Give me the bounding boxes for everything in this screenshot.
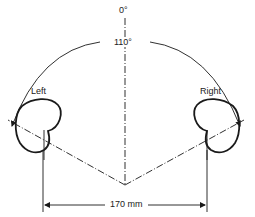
microphone-diagram	[0, 0, 255, 217]
left-mic-label: Left	[31, 87, 46, 96]
angle-arc-left	[12, 42, 100, 126]
left-cardioid-pattern	[16, 99, 61, 160]
left-mic-axis-line	[8, 120, 125, 185]
top-angle-label: 0°	[119, 6, 128, 15]
spacing-dimension-label: 170 mm	[108, 200, 145, 209]
right-mic-axis-line	[125, 120, 244, 185]
right-mic-label: Right	[200, 87, 221, 96]
included-angle-label: 110°	[112, 38, 134, 47]
